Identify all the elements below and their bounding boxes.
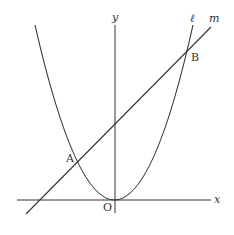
point-a-label: A [65, 152, 75, 165]
line-m-label: m [209, 12, 219, 25]
y-axis-label: y [111, 11, 119, 24]
parabola-l-label: ℓ [190, 12, 195, 25]
line-m [26, 27, 211, 214]
point-b-label: B [191, 51, 199, 64]
origin-label: O [103, 201, 112, 214]
parabola-l [35, 25, 193, 200]
x-axis-label: x [214, 193, 221, 206]
graph-canvas: y x O ℓ m A B [0, 0, 234, 235]
